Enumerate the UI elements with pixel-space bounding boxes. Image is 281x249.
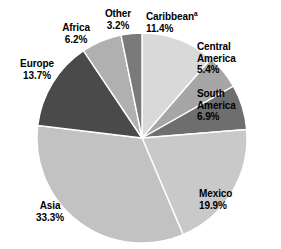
pie-label-other-name: Other <box>97 8 139 20</box>
pie-label-mexico-value: 19.9% <box>199 200 232 212</box>
pie-label-other-value: 3.2% <box>97 20 139 32</box>
pie-label-central-america-name-line1: Central <box>197 41 267 53</box>
pie-label-south-america-name-line2: America <box>197 100 271 112</box>
pie-label-central-america: Central America 5.4% <box>197 41 267 76</box>
pie-label-caribbean: Caribbeana 11.4% <box>146 8 198 34</box>
pie-label-central-america-value: 5.4% <box>197 64 267 76</box>
pie-label-other: Other 3.2% <box>97 8 139 31</box>
pie-label-mexico: Mexico 19.9% <box>199 188 232 211</box>
pie-label-south-america: South America 6.9% <box>197 88 271 123</box>
pie-label-europe-name: Europe <box>8 58 66 70</box>
pie-label-south-america-value: 6.9% <box>197 111 271 123</box>
pie-chart: Caribbeana 11.4% Central America 5.4% So… <box>0 0 281 249</box>
pie-label-africa-name: Africa <box>52 22 100 34</box>
pie-label-mexico-name: Mexico <box>199 188 232 200</box>
pie-label-asia: Asia 33.3% <box>22 200 78 223</box>
pie-label-asia-value: 33.3% <box>22 212 78 224</box>
pie-label-south-america-name-line1: South <box>197 88 271 100</box>
pie-label-africa-value: 6.2% <box>52 34 100 46</box>
pie-label-europe: Europe 13.7% <box>8 58 66 81</box>
pie-label-africa: Africa 6.2% <box>52 22 100 45</box>
pie-label-asia-name: Asia <box>22 200 78 212</box>
footnote-marker-a: a <box>194 10 198 17</box>
pie-label-central-america-name-line2: America <box>197 53 267 65</box>
pie-label-europe-value: 13.7% <box>8 70 66 82</box>
pie-label-caribbean-value: 11.4% <box>146 23 198 35</box>
pie-label-caribbean-name: Caribbeana <box>146 8 198 23</box>
